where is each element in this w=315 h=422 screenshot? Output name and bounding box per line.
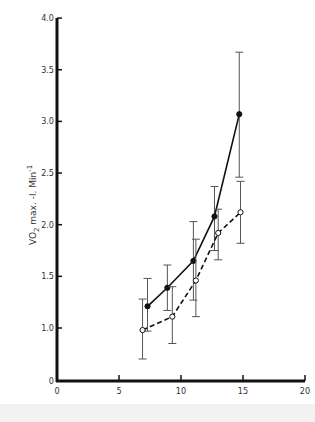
data-point-open (170, 314, 175, 319)
page-bottom-shade (0, 404, 315, 422)
y-axis-title-rest: max. -l. Min (28, 172, 38, 228)
y-tick-label: 0 (49, 376, 54, 386)
x-tick-label: 20 (300, 386, 310, 396)
series-open (139, 181, 245, 359)
x-tick-label: 15 (238, 386, 248, 396)
y-tick-label: 3.0 (41, 116, 54, 126)
data-point-filled (237, 112, 242, 117)
series-layer (139, 52, 245, 359)
series-filled (144, 52, 244, 331)
y-axis-title-sup: -1 (26, 165, 34, 172)
x-tick-label: 0 (54, 386, 59, 396)
y-axis-title-main: VO (28, 232, 38, 245)
y-tick-label: 2.0 (41, 220, 54, 230)
y-tick-label: 1.0 (41, 323, 54, 333)
data-point-open (140, 327, 145, 332)
data-point-filled (191, 258, 196, 263)
y-tick-label: 1.5 (41, 271, 54, 281)
data-point-filled (145, 304, 150, 309)
data-point-open (216, 230, 221, 235)
y-axis-title: VO2 max. -l. Min-1 (26, 165, 41, 245)
series-line (143, 212, 241, 330)
x-tick-label: 10 (176, 386, 186, 396)
data-point-filled (165, 285, 170, 290)
y-tick-label: 2.5 (41, 168, 54, 178)
y-tick-label: 3.5 (41, 65, 54, 75)
y-tick-label: 4.0 (41, 13, 54, 23)
data-point-open (193, 278, 198, 283)
data-point-filled (212, 214, 217, 219)
chart: 01.01.52.02.53.03.54.005101520 AGE - Yea… (0, 0, 315, 422)
data-point-open (238, 210, 243, 215)
tick-marks: 01.01.52.02.53.03.54.005101520 (41, 13, 310, 396)
axes (56, 18, 305, 382)
x-tick-label: 5 (116, 386, 121, 396)
